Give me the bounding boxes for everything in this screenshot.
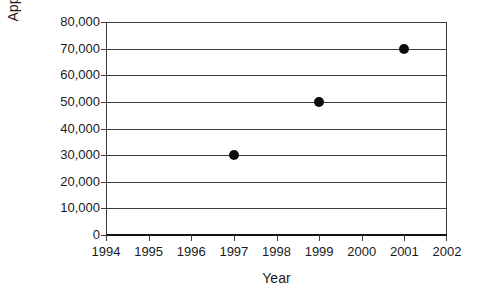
x-tick-mark bbox=[234, 235, 235, 241]
x-tick-mark bbox=[404, 235, 405, 241]
y-tick-label: 50,000 bbox=[46, 95, 100, 108]
x-tick-label: 1996 bbox=[168, 244, 214, 259]
x-tick-label: 2001 bbox=[381, 244, 427, 259]
x-axis-tick-labels: 199419951996199719981999200020012002 bbox=[106, 244, 447, 260]
x-tick-label: 1999 bbox=[296, 244, 342, 259]
gridline bbox=[106, 102, 447, 103]
y-axis-tick-labels: 80,00070,00060,00050,00040,00030,00020,0… bbox=[46, 22, 100, 235]
data-point[interactable] bbox=[229, 150, 239, 160]
y-tick-mark bbox=[101, 102, 107, 103]
x-tick-mark bbox=[277, 235, 278, 241]
x-tick-mark bbox=[191, 235, 192, 241]
gridline bbox=[106, 155, 447, 156]
y-tick-mark bbox=[101, 49, 107, 50]
y-tick-mark bbox=[101, 75, 107, 76]
x-tick-label: 2000 bbox=[339, 244, 385, 259]
x-axis-title-label: Year bbox=[262, 270, 291, 286]
y-tick-label: 10,000 bbox=[46, 201, 100, 214]
x-tick-mark bbox=[446, 235, 447, 241]
gridline bbox=[106, 129, 447, 130]
x-tick-mark bbox=[106, 235, 107, 241]
y-axis-title: Apples Produced bbox=[0, 0, 26, 74]
y-tick-label: 30,000 bbox=[46, 148, 100, 161]
gridline bbox=[106, 208, 447, 209]
data-point[interactable] bbox=[314, 97, 324, 107]
y-tick-label: 70,000 bbox=[46, 42, 100, 55]
y-tick-mark bbox=[101, 155, 107, 156]
y-tick-label: 80,000 bbox=[46, 15, 100, 28]
y-tick-mark bbox=[101, 182, 107, 183]
y-tick-label: 60,000 bbox=[46, 68, 100, 81]
y-tick-mark bbox=[101, 129, 107, 130]
gridline bbox=[106, 75, 447, 76]
y-tick-mark bbox=[101, 22, 107, 23]
y-tick-label: 40,000 bbox=[46, 122, 100, 135]
y-tick-label: 20,000 bbox=[46, 175, 100, 188]
data-point[interactable] bbox=[399, 44, 409, 54]
x-tick-mark bbox=[149, 235, 150, 241]
x-tick-label: 2002 bbox=[424, 244, 470, 259]
plot-area bbox=[106, 22, 447, 235]
x-tick-mark bbox=[319, 235, 320, 241]
x-tick-label: 1998 bbox=[254, 244, 300, 259]
y-tick-label: 0 bbox=[46, 228, 100, 241]
x-tick-label: 1997 bbox=[211, 244, 257, 259]
x-tick-label: 1994 bbox=[83, 244, 129, 259]
x-axis-title: Year bbox=[106, 270, 447, 286]
x-tick-mark bbox=[362, 235, 363, 241]
gridline bbox=[106, 22, 447, 23]
y-tick-mark bbox=[101, 208, 107, 209]
y-axis-title-label: Apples Produced bbox=[5, 0, 21, 22]
gridline bbox=[106, 182, 447, 183]
chart-figure: Apples Produced 80,00070,00060,00050,000… bbox=[0, 0, 483, 301]
gridline bbox=[106, 49, 447, 50]
x-tick-label: 1995 bbox=[126, 244, 172, 259]
